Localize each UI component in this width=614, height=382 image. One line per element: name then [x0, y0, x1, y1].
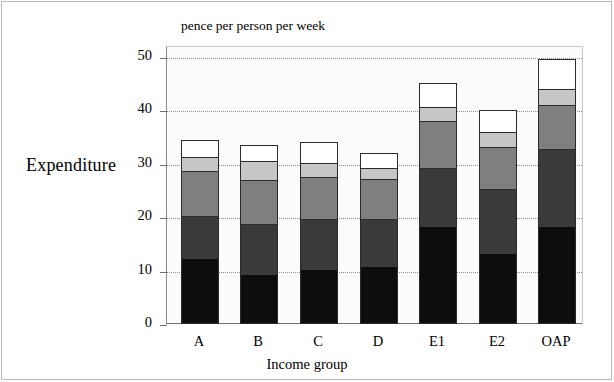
bar-segment [300, 163, 338, 177]
bar-segment [538, 89, 576, 105]
y-axis-tick [160, 58, 167, 59]
y-axis-tick-label: 40 [118, 100, 152, 117]
bar-E1 [419, 83, 457, 324]
y-axis-tick [160, 218, 167, 219]
bar-segment [181, 216, 219, 259]
bar-segment [181, 259, 219, 323]
x-axis-title: Income group [0, 356, 614, 373]
bar-segment [240, 275, 278, 323]
y-axis-tick-label: 20 [118, 207, 152, 224]
bar-segment [360, 168, 398, 179]
bar-segment [300, 142, 338, 162]
bar-segment [360, 219, 398, 267]
x-axis-label-OAP: OAP [521, 333, 591, 350]
bar-segment [419, 227, 457, 323]
bar-segment [479, 189, 517, 253]
y-axis-tick [160, 111, 167, 112]
bar-segment [240, 224, 278, 275]
bar-segment [419, 107, 457, 121]
plot-area [166, 46, 583, 324]
bar-segment [419, 121, 457, 168]
gridline [167, 111, 582, 112]
bar-segment [300, 219, 338, 270]
bar-segment [479, 132, 517, 146]
y-axis-tick [160, 272, 167, 273]
bar-segment [240, 145, 278, 161]
bar-segment [300, 270, 338, 323]
bar-segment [360, 179, 398, 219]
bar-segment [360, 267, 398, 323]
bar-segment [538, 105, 576, 149]
y-axis-tick-label: 50 [118, 47, 152, 64]
bar-segment [479, 254, 517, 324]
bar-segment [360, 153, 398, 168]
bar-D [360, 153, 398, 324]
bar-segment [181, 157, 219, 170]
bar-segment [538, 59, 576, 88]
bar-A [181, 140, 219, 324]
y-axis-tick-label: 0 [118, 314, 152, 331]
chart-figure: Expenditure pence per person per week In… [0, 0, 614, 382]
units-caption: pence per person per week [181, 18, 325, 34]
bar-segment [181, 140, 219, 158]
bar-segment [419, 168, 457, 227]
y-axis-tick-label: 30 [118, 154, 152, 171]
bar-segment [538, 227, 576, 323]
bar-segment [419, 83, 457, 106]
bar-OAP [538, 59, 576, 324]
y-axis-tick [160, 325, 167, 326]
bar-segment [479, 147, 517, 190]
bar-B [240, 145, 278, 324]
bar-segment [240, 161, 278, 180]
bar-segment [479, 110, 517, 132]
y-axis-tick-label: 10 [118, 261, 152, 278]
bar-segment [538, 149, 576, 227]
y-axis-tick [160, 165, 167, 166]
bar-segment [181, 171, 219, 216]
gridline [167, 58, 582, 59]
bar-segment [300, 177, 338, 219]
bar-E2 [479, 110, 517, 324]
bar-segment [240, 180, 278, 224]
bar-C [300, 142, 338, 324]
